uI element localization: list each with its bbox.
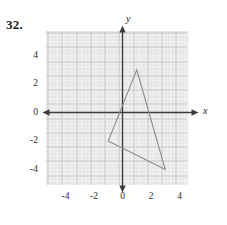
x-tick-label-2: 2 [149, 192, 154, 202]
y-tick-label-0: 0 [24, 108, 38, 118]
x-tick-label--2: -2 [90, 192, 98, 202]
y-tick-label--4: -4 [20, 165, 38, 175]
x-tick-label-4: 4 [177, 192, 182, 202]
x-axis-right-arrow [192, 109, 199, 115]
y-axis-up-arrow [119, 26, 125, 33]
y-tick-label-2: 2 [24, 79, 38, 89]
y-axis [119, 26, 125, 193]
y-axis-name: y [126, 14, 130, 24]
triangle-shape [108, 70, 165, 170]
x-tick-label-0: 0 [120, 192, 125, 202]
x-axis-name: x [203, 106, 207, 116]
x-axis-left-arrow [43, 109, 50, 115]
x-tick-label--4: -4 [62, 192, 70, 202]
graph-figure: 32. -4 -2 0 2 4 4 2 0 -2 -4 y x [0, 0, 227, 225]
y-tick-label-4: 4 [24, 51, 38, 61]
y-tick-label--2: -2 [20, 136, 38, 146]
